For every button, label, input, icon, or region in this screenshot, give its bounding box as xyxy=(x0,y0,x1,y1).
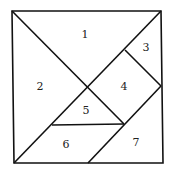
tangram-diagram: 1 2 3 4 5 6 7 xyxy=(0,0,171,176)
piece-1-label: 1 xyxy=(82,28,89,41)
piece-7-label: 7 xyxy=(133,136,140,149)
piece-labels: 1 2 3 4 5 6 7 xyxy=(37,28,150,151)
edge-3-4 xyxy=(125,50,161,86)
piece-5-label: 5 xyxy=(83,104,90,117)
edge-5-6 xyxy=(52,124,124,125)
piece-4-label: 4 xyxy=(121,80,128,93)
piece-2-label: 2 xyxy=(37,80,44,93)
piece-3-label: 3 xyxy=(143,41,150,54)
piece-6-label: 6 xyxy=(63,138,70,151)
